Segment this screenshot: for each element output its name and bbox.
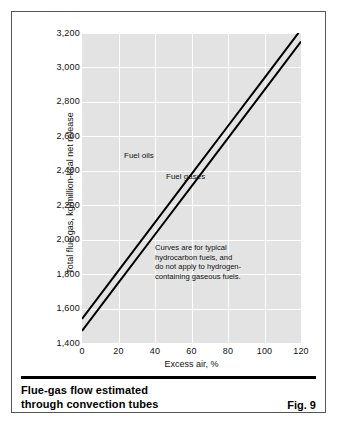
x-tick-label: 100 — [257, 346, 273, 356]
y-tick-label: 1,600 — [14, 304, 80, 313]
y-tick-label: 2,200 — [14, 201, 80, 210]
x-tick-label: 120 — [293, 346, 309, 356]
figure-container: Total flue gas, kg/million-kcal net rele… — [11, 11, 326, 413]
x-tick-label: 80 — [223, 346, 233, 356]
y-tick-label: 1,400 — [14, 339, 80, 348]
y-tick-label: 2,600 — [14, 132, 80, 141]
x-axis-title: Excess air, % — [82, 359, 301, 369]
y-tick-label: 3,200 — [14, 29, 80, 38]
x-tick-label: 60 — [186, 346, 196, 356]
plot-region: Fuel oils Fuel gases Curves are for typi… — [82, 33, 301, 343]
note-line-3: do not apply to hydrogen- — [155, 262, 241, 271]
y-tick-label: 2,400 — [14, 166, 80, 175]
caption-line-2: through convection tubes — [21, 397, 158, 411]
x-tick-label: 40 — [150, 346, 160, 356]
chart-area: Total flue gas, kg/million-kcal net rele… — [12, 12, 325, 367]
caption-line-1: Flue-gas flow estimated — [21, 383, 158, 397]
curves-svg — [82, 33, 301, 343]
x-tick-label: 20 — [113, 346, 123, 356]
note-line-2: hydrocarbon fuels, and — [155, 253, 232, 262]
x-axis-tick-labels: 020406080100120 — [82, 346, 301, 358]
x-tick-label: 0 — [79, 346, 84, 356]
caption-divider — [21, 376, 316, 379]
figure-number: Fig. 9 — [287, 398, 316, 412]
y-tick-label: 2,800 — [14, 97, 80, 106]
y-tick-label: 1,800 — [14, 270, 80, 279]
series-label-fuel-gases: Fuel gases — [166, 172, 205, 181]
series-label-fuel-oils: Fuel oils — [124, 151, 154, 160]
caption-text: Flue-gas flow estimated through convecti… — [21, 383, 158, 411]
caption-block: Flue-gas flow estimated through convecti… — [21, 383, 316, 411]
curve-fuel-gases — [82, 42, 301, 331]
y-axis-tick-labels: 1,4001,6001,8002,0002,2002,4002,6002,800… — [12, 33, 80, 343]
y-tick-label: 2,000 — [14, 235, 80, 244]
note-line-1: Curves are for typical — [155, 243, 227, 252]
note-line-4: containing gaseous fuels. — [155, 272, 241, 281]
y-tick-label: 3,000 — [14, 63, 80, 72]
